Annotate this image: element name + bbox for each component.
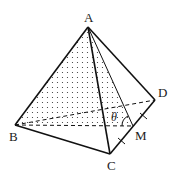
vertex-label-a: A [84,10,94,25]
point-label-m: M [135,128,147,143]
vertex-label-d: D [158,85,167,100]
vertex-label-b: B [9,129,18,144]
vertex-label-c: C [107,158,116,173]
angle-label-theta: θ [111,110,117,124]
edge-bc [15,125,110,154]
tetrahedron-diagram: A B C D M θ [0,0,178,181]
